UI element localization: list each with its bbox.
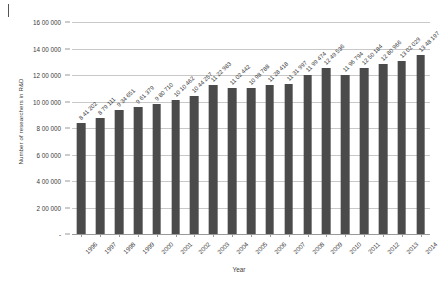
y-axis-tick-label: 8 00 000 bbox=[36, 125, 61, 132]
x-axis-tick: 2010 bbox=[336, 234, 355, 264]
y-axis-tick-mark bbox=[65, 48, 70, 49]
x-axis-tick-mark bbox=[402, 234, 403, 237]
y-axis-tick-mark bbox=[65, 181, 70, 182]
x-axis-tick-mark bbox=[176, 234, 177, 237]
x-axis-tick-mark bbox=[232, 234, 233, 237]
bar-slot: 8 79 111 bbox=[91, 22, 110, 234]
bar-slot: 10 10 462 bbox=[166, 22, 185, 234]
y-axis-tick-mark bbox=[65, 101, 70, 102]
bar-chart: Number of researchers in R&D -2 00 0004 … bbox=[0, 0, 444, 287]
bar[interactable] bbox=[284, 84, 293, 234]
x-axis-tick: 2004 bbox=[223, 234, 242, 264]
x-axis-tick-mark bbox=[213, 234, 214, 237]
x-axis-tick: 2011 bbox=[355, 234, 374, 264]
y-axis-tick-mark bbox=[65, 22, 70, 23]
x-axis-tick-label: 2014 bbox=[423, 240, 438, 255]
y-axis-tick-label: 4 00 000 bbox=[36, 178, 61, 185]
y-axis-tick-labels: -2 00 0004 00 0006 00 0008 00 00010 00 0… bbox=[0, 22, 70, 234]
x-axis-tick: 2003 bbox=[204, 234, 223, 264]
x-axis-tick: 2000 bbox=[147, 234, 166, 264]
y-axis-tick-label: 2 00 000 bbox=[36, 204, 61, 211]
bar[interactable] bbox=[134, 107, 143, 234]
y-axis-tick-mark bbox=[65, 154, 70, 155]
y-axis-tick-label: 16 00 000 bbox=[33, 19, 61, 26]
bar-slot: 12 49 536 bbox=[317, 22, 336, 234]
bar-slot: 9 61 379 bbox=[129, 22, 148, 234]
x-axis-tick: 2014 bbox=[411, 234, 430, 264]
bar-slot: 9 34 651 bbox=[110, 22, 129, 234]
y-axis-tick-mark bbox=[65, 128, 70, 129]
x-axis-tick: 2002 bbox=[185, 234, 204, 264]
x-axis-tick: 2008 bbox=[298, 234, 317, 264]
x-axis-tick: 2006 bbox=[260, 234, 279, 264]
bar[interactable] bbox=[190, 96, 199, 234]
x-axis-tick: 2012 bbox=[373, 234, 392, 264]
plot-area: 8 41 2028 79 1119 34 6519 61 3799 80 710… bbox=[72, 22, 430, 234]
x-axis-tick: 1999 bbox=[129, 234, 148, 264]
x-axis-tick-mark bbox=[326, 234, 327, 237]
bar-series: 8 41 2028 79 1119 34 6519 61 3799 80 710… bbox=[72, 22, 430, 234]
x-axis-tick-mark bbox=[270, 234, 271, 237]
x-axis-tick-mark bbox=[345, 234, 346, 237]
y-axis-tick-label: 6 00 000 bbox=[36, 151, 61, 158]
x-axis-tick: 2009 bbox=[317, 234, 336, 264]
x-axis-tick-mark bbox=[289, 234, 290, 237]
bar-slot: 13 48 197 bbox=[411, 22, 430, 234]
x-axis-tick-mark bbox=[421, 234, 422, 237]
bar[interactable] bbox=[171, 100, 180, 234]
x-axis-tick: 2013 bbox=[392, 234, 411, 264]
x-axis-tick: 2007 bbox=[279, 234, 298, 264]
x-axis-tick-mark bbox=[251, 234, 252, 237]
bar[interactable] bbox=[228, 88, 237, 234]
x-axis-tick-mark bbox=[364, 234, 365, 237]
bar-slot: 8 41 202 bbox=[72, 22, 91, 234]
y-axis-tick-mark bbox=[65, 207, 70, 208]
bar-slot: 13 02 029 bbox=[392, 22, 411, 234]
bar-slot: 11 99 474 bbox=[298, 22, 317, 234]
bar-slot: 12 80 966 bbox=[373, 22, 392, 234]
bar[interactable] bbox=[303, 75, 312, 234]
bar-slot: 9 80 710 bbox=[147, 22, 166, 234]
x-axis-tick: 1998 bbox=[110, 234, 129, 264]
bar[interactable] bbox=[247, 88, 256, 234]
bar-slot: 11 31 997 bbox=[279, 22, 298, 234]
bar[interactable] bbox=[209, 85, 218, 234]
x-axis-tick-mark bbox=[383, 234, 384, 237]
bar-slot: 12 50 184 bbox=[355, 22, 374, 234]
x-axis-tick-mark bbox=[81, 234, 82, 237]
y-axis-tick-mark bbox=[65, 234, 70, 235]
bar[interactable] bbox=[397, 61, 406, 234]
bar[interactable] bbox=[416, 55, 425, 234]
bar-slot: 11 28 418 bbox=[260, 22, 279, 234]
x-axis-tick: 2005 bbox=[242, 234, 261, 264]
bar-value-label: 13 48 197 bbox=[417, 31, 440, 54]
x-axis-tick-mark bbox=[138, 234, 139, 237]
x-axis-tick-mark bbox=[157, 234, 158, 237]
x-axis-tick-mark bbox=[119, 234, 120, 237]
bar[interactable] bbox=[379, 64, 388, 234]
bar-slot: 10 44 257 bbox=[185, 22, 204, 234]
y-axis-tick-label: 12 00 000 bbox=[33, 72, 61, 79]
y-axis-tick-mark bbox=[65, 75, 70, 76]
x-axis-title: Year bbox=[0, 266, 444, 273]
bar-slot: 11 22 983 bbox=[204, 22, 223, 234]
x-axis-tick-mark bbox=[194, 234, 195, 237]
bar[interactable] bbox=[265, 85, 274, 235]
x-axis-tick-labels: 1996199719981999200020012002200320042005… bbox=[72, 234, 430, 264]
bar-slot: 11 02 442 bbox=[223, 22, 242, 234]
bar[interactable] bbox=[341, 75, 350, 234]
y-axis-tick-label: - bbox=[59, 231, 61, 238]
bar[interactable] bbox=[115, 110, 124, 234]
bar[interactable] bbox=[152, 104, 161, 234]
x-axis-tick: 1996 bbox=[72, 234, 91, 264]
bar[interactable] bbox=[360, 68, 369, 234]
bar[interactable] bbox=[322, 68, 331, 234]
y-axis-tick-label: 14 00 000 bbox=[33, 45, 61, 52]
x-axis-tick-mark bbox=[308, 234, 309, 237]
x-axis-tick-mark bbox=[100, 234, 101, 237]
bar-slot: 10 98 788 bbox=[242, 22, 261, 234]
bar[interactable] bbox=[96, 118, 105, 234]
bar[interactable] bbox=[77, 123, 86, 234]
y-axis-tick-label: 10 00 000 bbox=[33, 98, 61, 105]
x-axis-tick: 2001 bbox=[166, 234, 185, 264]
